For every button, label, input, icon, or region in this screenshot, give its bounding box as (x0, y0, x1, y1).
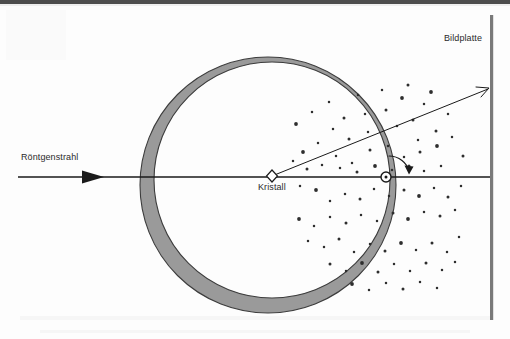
diffraction-spot (329, 200, 332, 203)
diffraction-spot (392, 212, 395, 215)
incident-beam-label: Röntgenstrahl (21, 152, 78, 162)
diffraction-spot (376, 220, 379, 223)
diffraction-spot (385, 109, 388, 112)
diffraction-spot (406, 217, 410, 221)
diffraction-spot (425, 262, 428, 265)
diffraction-spot (451, 136, 454, 139)
diffraction-spot (433, 187, 436, 190)
diffraction-spot (409, 270, 412, 273)
diffraction-spot (301, 150, 305, 154)
diffraction-spot (356, 171, 359, 174)
diffraction-diagram (0, 0, 510, 339)
diffraction-spot (332, 128, 335, 131)
diffraction-spot (357, 94, 360, 97)
diffraction-spot (454, 261, 457, 264)
diffraction-spot (417, 194, 421, 198)
diffraction-spot (299, 185, 302, 188)
diffraction-spot (447, 196, 450, 199)
diffraction-spot (377, 271, 380, 274)
diffraction-spot (436, 287, 439, 290)
diffraction-spot (435, 144, 439, 148)
diffraction-spot (393, 263, 396, 266)
diffraction-spot (297, 217, 301, 221)
diffraction-spot (351, 162, 354, 165)
diffraction-spot (373, 188, 376, 191)
diffraction-spot (384, 250, 387, 253)
diffraction-spot (359, 198, 362, 201)
diffraction-spot (403, 189, 406, 192)
diffraction-spot (329, 263, 332, 266)
diffraction-spot (307, 240, 310, 243)
diffraction-spot (360, 214, 363, 217)
diffraction-spot (447, 113, 450, 116)
diffraction-spot (314, 188, 318, 192)
diffraction-spot (440, 165, 443, 168)
diffraction-spot (439, 215, 442, 218)
debye-scherrer-ring (0, 0, 510, 339)
diffraction-spot (441, 269, 444, 272)
diffraction-spot (402, 288, 405, 291)
diffraction-spot (350, 282, 354, 286)
diffraction-spot (423, 170, 426, 173)
diffraction-spot (429, 90, 433, 94)
diffraction-spot (388, 195, 391, 198)
diffraction-spot (387, 145, 390, 148)
diffraction-spot (403, 156, 406, 159)
diffraction-spot (306, 168, 309, 171)
figure-container: Röntgenstrahl Bildplatte Kristall (0, 0, 510, 339)
diffraction-spot (381, 89, 384, 92)
diffraction-spot (462, 155, 465, 158)
diffraction-spot (339, 167, 342, 170)
diffraction-spot (344, 193, 347, 196)
diffraction-spot (458, 236, 461, 239)
diffraction-spot (419, 151, 422, 154)
diffraction-spot (364, 113, 367, 116)
diffraction-spot (343, 117, 346, 120)
crystal-label: Kristall (258, 182, 286, 192)
diffraction-spot (385, 282, 388, 285)
diffraction-spot (417, 139, 420, 142)
diffraction-spot (407, 84, 410, 87)
diffraction-spot (423, 103, 426, 106)
diffraction-spot (311, 111, 314, 114)
diffraction-spot (373, 164, 377, 168)
diffraction-spot (292, 160, 295, 163)
diffraction-spot (338, 238, 341, 241)
diffraction-spot (313, 225, 316, 228)
diffraction-spot (294, 122, 298, 126)
diffraction-spot (369, 243, 372, 246)
image-plate-bar (490, 15, 493, 320)
diffraction-spot (400, 96, 404, 100)
diffraction-spot (328, 101, 331, 104)
diffraction-spot (446, 251, 449, 254)
diffraction-spot (321, 164, 324, 167)
diffraction-spot (345, 270, 348, 273)
diffraction-spot (399, 241, 403, 245)
diffraction-spot (415, 249, 418, 252)
diffraction-spot (348, 138, 351, 141)
diffraction-spot (460, 185, 463, 188)
diffraction-spot (369, 149, 372, 152)
diffraction-spot (367, 131, 370, 134)
diffraction-spot (419, 281, 422, 284)
diffraction-spot (435, 130, 438, 133)
reflection-marker-icon (381, 172, 391, 182)
diffraction-spot (431, 242, 434, 245)
diffraction-spot (329, 216, 332, 219)
diffraction-spot (423, 211, 426, 214)
diffraction-spot (317, 142, 320, 145)
image-plate-label: Bildplatte (444, 33, 482, 43)
diffraction-spot (353, 251, 356, 254)
diffraction-spot (335, 155, 338, 158)
diffraction-spot (368, 289, 371, 292)
diffraction-spot (391, 169, 394, 172)
diffraction-spot (323, 246, 326, 249)
diffraction-spot (360, 261, 364, 265)
diffraction-spot (345, 222, 348, 225)
diffraction-spot (454, 209, 457, 212)
